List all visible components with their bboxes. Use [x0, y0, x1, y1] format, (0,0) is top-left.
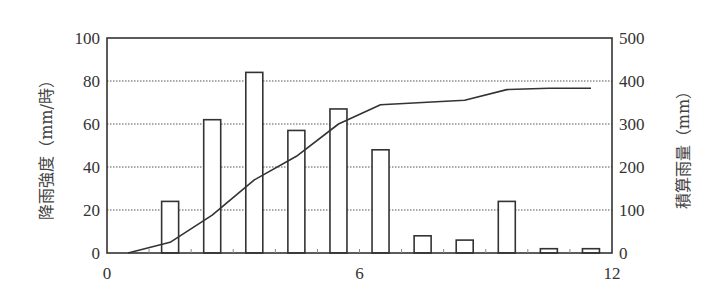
left-axis-title: 降雨強度（mm/時）	[37, 72, 56, 220]
x-tick-label: 0	[103, 264, 112, 283]
bar	[162, 201, 179, 253]
bar	[246, 72, 263, 253]
left-tick-label: 80	[83, 72, 100, 91]
rain-intensity-bars	[162, 72, 600, 253]
right-axis-tick-labels: 0100200300400500	[619, 29, 645, 263]
plot-border	[107, 38, 612, 253]
right-tick-label: 500	[619, 29, 645, 48]
right-axis-title: 積算雨量（mm）	[674, 83, 693, 209]
left-tick-label: 100	[75, 29, 101, 48]
left-axis-tick-labels: 020406080100	[75, 29, 101, 263]
right-tick-label: 400	[619, 72, 645, 91]
bar	[330, 109, 347, 253]
plot-frame	[107, 38, 612, 253]
left-tick-label: 40	[83, 158, 100, 177]
bar	[498, 201, 515, 253]
x-tick-label: 6	[355, 264, 364, 283]
left-tick-label: 20	[83, 201, 100, 220]
rainfall-chart: 020406080100 0100200300400500 0612 降雨強度（…	[0, 0, 721, 303]
right-tick-label: 100	[619, 201, 645, 220]
bar	[288, 130, 305, 253]
bar	[456, 240, 473, 253]
right-tick-label: 0	[619, 244, 628, 263]
bar	[372, 150, 389, 253]
left-tick-label: 0	[92, 244, 101, 263]
x-tick-label: 12	[604, 264, 621, 283]
bar	[204, 120, 221, 253]
gridlines	[107, 81, 612, 210]
left-tick-label: 60	[83, 115, 100, 134]
right-tick-label: 200	[619, 158, 645, 177]
bar	[414, 236, 431, 253]
right-tick-label: 300	[619, 115, 645, 134]
cumulative-line	[128, 88, 591, 253]
x-axis-tick-labels: 0612	[103, 264, 621, 283]
cumulative-rainfall-line	[128, 88, 591, 253]
